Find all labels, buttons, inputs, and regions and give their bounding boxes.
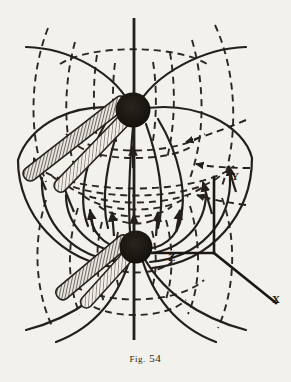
axis-label-y: Y [231,170,239,182]
field-diagram [0,0,291,382]
lower-pole-sphere [120,231,153,264]
figure-caption: Fig. 54 [0,352,291,364]
figure-page: Y X Z Fig. 54 [0,0,291,382]
upper-pole-sphere [116,93,151,128]
caption-prefix: Fig. [130,354,146,364]
axis-label-x: X [272,293,280,305]
axis-label-z: Z [168,251,175,263]
caption-number: 54 [149,352,161,364]
